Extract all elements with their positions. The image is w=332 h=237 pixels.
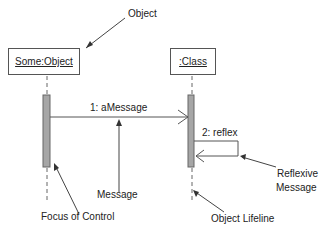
annotation-message: Message bbox=[97, 189, 138, 200]
activation-bar-class bbox=[188, 95, 194, 167]
object-label-some-object: Some:Object bbox=[15, 56, 73, 67]
annotation-reflexive-message-line2: Message bbox=[276, 182, 317, 193]
activation-bar-some-object bbox=[43, 95, 50, 167]
pointer-focus-of-control bbox=[55, 165, 79, 214]
annotation-focus-of-control: Focus of Control bbox=[41, 211, 114, 222]
object-box-some-object: Some:Object bbox=[8, 48, 80, 75]
object-label-class: :Class bbox=[179, 56, 207, 67]
message-label-1: 1: aMessage bbox=[90, 102, 147, 113]
annotation-reflexive-message-line1: Reflexive bbox=[277, 168, 318, 179]
object-box-class: :Class bbox=[170, 48, 216, 75]
annotation-object-lifeline: Object Lifeline bbox=[211, 213, 274, 224]
arrowhead-icon bbox=[86, 41, 93, 48]
arrowhead-icon bbox=[240, 154, 246, 160]
diagram-canvas bbox=[0, 0, 332, 237]
pointer-reflexive-message bbox=[242, 157, 276, 167]
arrowhead-icon bbox=[116, 119, 122, 126]
annotation-object: Object bbox=[128, 8, 157, 19]
message-label-2: 2: reflex bbox=[202, 127, 238, 138]
arrowhead-icon bbox=[54, 163, 59, 171]
pointer-object-lifeline bbox=[194, 191, 224, 212]
reflexive-message-arrow bbox=[194, 141, 238, 156]
